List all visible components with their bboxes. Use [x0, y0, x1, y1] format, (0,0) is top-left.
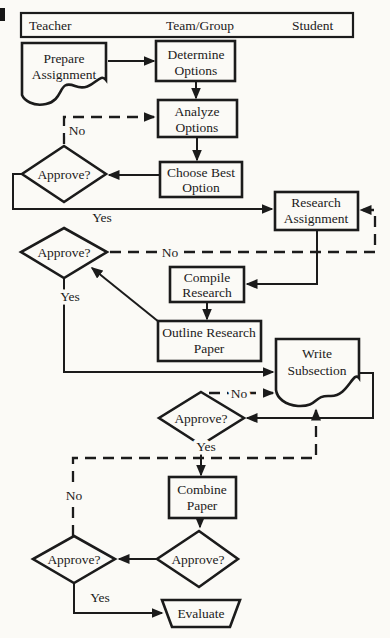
- lane-label-student: Student: [292, 18, 334, 33]
- edge-approve5-yes-to-evaluate: [74, 583, 162, 613]
- evaluate-label: Evaluate: [177, 606, 224, 621]
- outline-research-paper-label-2: Paper: [194, 341, 225, 356]
- research-assignment-label-2: Assignment: [284, 211, 349, 226]
- approve2-label: Approve?: [37, 245, 90, 260]
- analyze-options-label-1: Analyze: [175, 104, 220, 119]
- choose-best-option-label-1: Choose Best: [167, 165, 235, 180]
- edge-label-yes2: Yes: [60, 289, 80, 304]
- write-subsection-label-1: Write: [302, 346, 332, 361]
- prepare-assignment-label-1: Prepare: [43, 51, 84, 66]
- edge-label-yes5: Yes: [90, 590, 110, 605]
- flowchart-page: Teacher Team/Group Student Prepare Assig…: [0, 0, 390, 638]
- edge-label-no5: No: [66, 488, 83, 503]
- approve4-label: Approve?: [171, 552, 224, 567]
- edge-label-no1: No: [69, 123, 86, 138]
- edge-research-to-compile: [247, 230, 317, 284]
- edge-label-no2: No: [162, 245, 179, 260]
- lane-label-team-group: Team/Group: [166, 18, 234, 33]
- research-assignment-label-1: Research: [291, 195, 341, 210]
- approve1-label: Approve?: [37, 167, 90, 182]
- edge-outline-to-approve2: [92, 268, 159, 322]
- write-subsection-label-2: Subsection: [287, 363, 346, 378]
- choose-best-option-label-2: Option: [182, 180, 220, 195]
- analyze-options-label-2: Options: [176, 120, 219, 135]
- combine-paper-label-1: Combine: [177, 482, 227, 497]
- determine-options-label-2: Options: [175, 63, 218, 78]
- flowchart-canvas: Teacher Team/Group Student Prepare Assig…: [0, 0, 390, 638]
- approve3-label: Approve?: [174, 411, 227, 426]
- edge-label-no3: No: [231, 386, 248, 401]
- outline-research-paper-label-1: Outline Research: [162, 325, 256, 340]
- compile-research-label-1: Compile: [184, 270, 231, 285]
- compile-research-label-2: Research: [182, 285, 232, 300]
- combine-paper-label-2: Paper: [187, 498, 218, 513]
- lane-label-teacher: Teacher: [29, 18, 72, 33]
- edge-label-yes3: Yes: [196, 439, 216, 454]
- scan-artifact: [0, 8, 5, 21]
- edge-label-yes1: Yes: [92, 210, 112, 225]
- determine-options-label-1: Determine: [168, 47, 225, 62]
- approve5-label: Approve?: [47, 552, 100, 567]
- prepare-assignment-label-2: Assignment: [32, 67, 97, 82]
